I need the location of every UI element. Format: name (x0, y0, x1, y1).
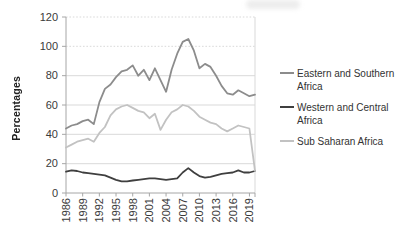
x-axis-tick-label: 2004 (160, 198, 172, 222)
x-axis-tick-label: 1998 (127, 198, 139, 222)
y-axis-tick-label: 120 (40, 11, 58, 23)
y-axis-tick-label: 80 (46, 69, 58, 81)
x-axis-tick-label: 2007 (177, 198, 189, 222)
x-axis-tick-label: 2019 (243, 198, 255, 222)
y-axis-tick-label: 0 (52, 187, 58, 199)
legend-line-marker-icon (280, 106, 294, 108)
legend-item-sub-saharan-africa: Sub Saharan Africa (280, 135, 402, 148)
y-axis-tick-label: 60 (46, 99, 58, 111)
x-axis-tick-label: 1995 (110, 198, 122, 222)
series-line-3 (66, 105, 255, 171)
x-axis-tick-label: 2001 (143, 198, 155, 222)
chart-container: 0204060801001201986198919921995199820012… (0, 0, 404, 232)
x-axis-tick-label: 1992 (93, 198, 105, 222)
x-axis-tick-label: 2010 (193, 198, 205, 222)
x-axis-tick-label: 2013 (210, 198, 222, 222)
legend-item-western-central-africa: Western and Central Africa (280, 101, 402, 127)
y-axis-tick-label: 40 (46, 128, 58, 140)
legend-line-marker-icon (280, 140, 294, 142)
series-line-2 (66, 168, 255, 181)
legend-item-eastern-southern-africa: Eastern and Southern Africa (280, 67, 402, 93)
x-axis-tick-label: 2016 (227, 198, 239, 222)
legend-label: Sub Saharan Africa (297, 135, 383, 148)
y-axis-tick-label: 20 (46, 157, 58, 169)
legend-label: Western and Central Africa (297, 101, 402, 127)
series-line-1 (66, 39, 255, 129)
legend: Eastern and Southern Africa Western and … (280, 67, 402, 148)
y-axis-title: Percentages (10, 76, 22, 141)
legend-label: Eastern and Southern Africa (297, 67, 402, 93)
scan-artifact (246, 0, 300, 9)
x-axis-tick-label: 1986 (60, 198, 72, 222)
legend-line-marker-icon (280, 72, 294, 74)
x-axis-tick-label: 1989 (77, 198, 89, 222)
y-axis-tick-label: 100 (40, 40, 58, 52)
